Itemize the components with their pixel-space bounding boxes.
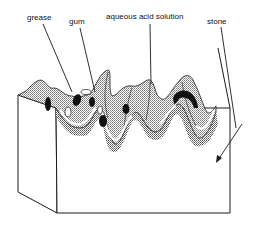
grease-leader <box>43 24 72 92</box>
stone-side-face <box>18 95 57 213</box>
gum-label: gum <box>69 17 85 26</box>
gum-blob <box>65 107 71 117</box>
gum-blob <box>98 106 103 114</box>
lithographic-stone-diagram: grease gum aqueous acid solution stone <box>0 0 253 231</box>
grease-blob <box>89 97 95 107</box>
grease-blob <box>99 115 107 127</box>
stone-label: stone <box>207 17 227 26</box>
gum-blob <box>81 90 91 95</box>
grease-blob <box>45 97 51 111</box>
gum-leader <box>80 28 95 92</box>
grease-blob <box>123 104 130 114</box>
aqueous-acid-solution-label: aqueous acid solution <box>106 12 183 21</box>
aqueous-leader <box>150 24 151 84</box>
grease-label: grease <box>27 13 52 22</box>
